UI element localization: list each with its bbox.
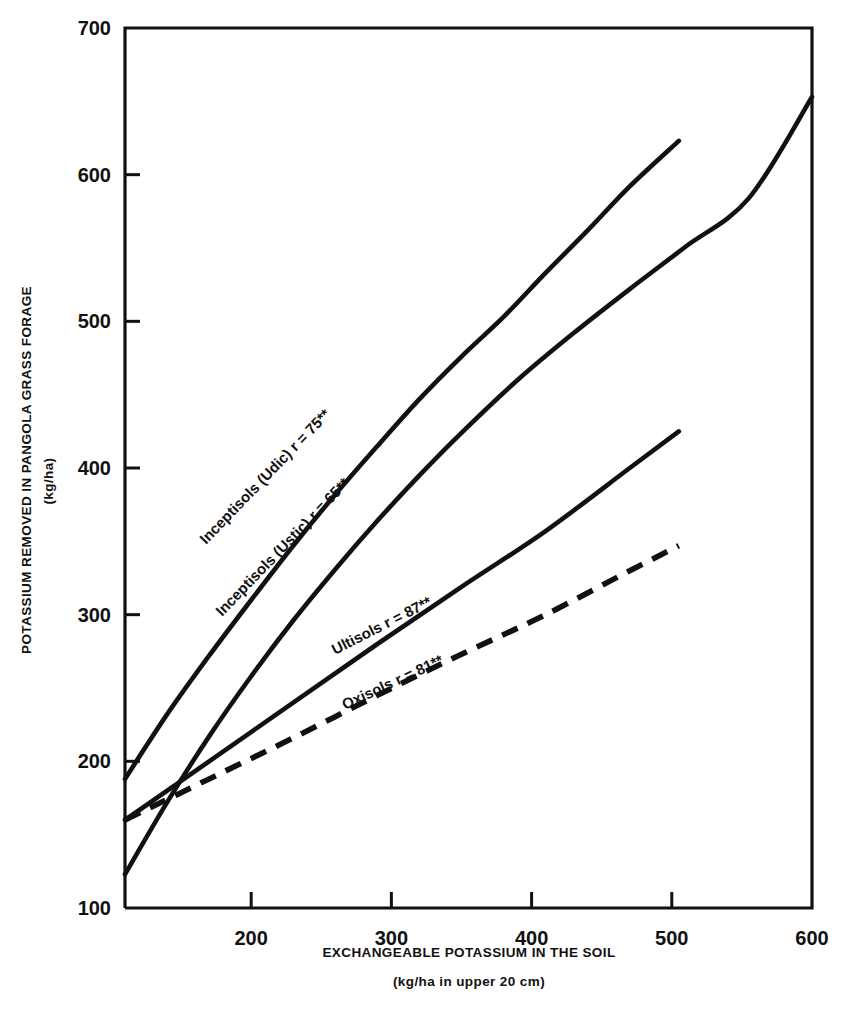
y-tick-label: 700	[78, 17, 111, 39]
y-tick-label: 100	[78, 897, 111, 919]
x-axis-subtitle: (kg/ha in upper 20 cm)	[393, 974, 545, 989]
potassium-removal-line-chart: 100200300400500600700 200300400500600 In…	[0, 0, 846, 1024]
chart-figure: 100200300400500600700 200300400500600 In…	[0, 0, 846, 1024]
x-tick-label: 600	[795, 927, 828, 949]
y-tick-label: 600	[78, 164, 111, 186]
y-tick-label: 500	[78, 310, 111, 332]
x-tick-label: 200	[234, 927, 267, 949]
y-tick-label: 300	[78, 604, 111, 626]
x-axis-title: EXCHANGEABLE POTASSIUM IN THE SOIL	[322, 945, 615, 960]
y-axis-subtitle: (kg/ha)	[41, 457, 56, 504]
y-tick-label: 200	[78, 750, 111, 772]
y-axis-title: POTASSIUM REMOVED IN PANGOLA GRASS FORAG…	[19, 286, 34, 654]
x-tick-label: 500	[655, 927, 688, 949]
y-tick-label: 400	[78, 457, 111, 479]
